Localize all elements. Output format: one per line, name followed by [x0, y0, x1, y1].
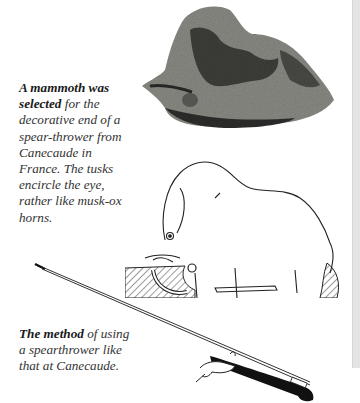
mammoth-carving-photo — [120, 0, 352, 130]
method-caption: The method of using a spearthrower like … — [19, 326, 139, 375]
mammoth-caption-body: for the decorative end of a spear-throwe… — [19, 96, 122, 224]
method-caption-lead: The method — [19, 326, 84, 341]
page-edge-strip — [352, 0, 360, 368]
mammoth-caption: A mammoth was selected for the decorativ… — [19, 80, 134, 226]
